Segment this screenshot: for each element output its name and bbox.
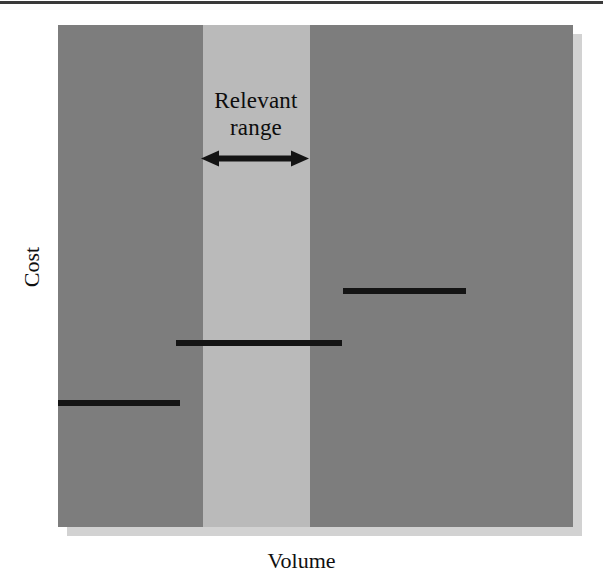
- relevant-range-caption-line-1: Relevant: [176, 87, 336, 114]
- step-cost-segment-3: [343, 288, 466, 294]
- step-cost-segment-1: [58, 400, 180, 406]
- page-top-rule: [0, 1, 603, 4]
- relevant-range-caption-line-2: range: [176, 114, 336, 141]
- axis-label-volume: Volume: [0, 548, 603, 574]
- plot-panel: Relevant range: [58, 25, 573, 527]
- relevant-range-caption: Relevant range: [176, 87, 336, 141]
- double-headed-horizontal-arrow-icon: [201, 149, 309, 168]
- step-cost-segment-2: [176, 340, 342, 346]
- axis-label-cost: Cost: [19, 227, 45, 307]
